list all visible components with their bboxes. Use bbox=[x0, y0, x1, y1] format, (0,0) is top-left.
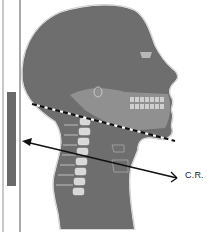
central-ray-label: C.R. bbox=[185, 170, 204, 180]
image-receptor bbox=[7, 92, 16, 186]
head-neck-silhouette bbox=[22, 5, 178, 230]
lateral-neck-diagram bbox=[0, 0, 213, 232]
